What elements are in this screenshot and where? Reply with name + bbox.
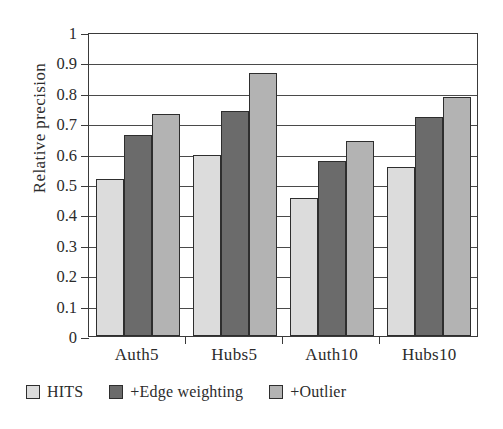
legend-label-1: +Edge weighting (130, 383, 243, 401)
y-axis-tick-label: 0.7 (56, 115, 77, 135)
bar-groups (89, 34, 477, 336)
bar-group-hubs10 (380, 34, 477, 336)
x-axis-label-hubs5: Hubs5 (186, 345, 284, 365)
y-axis-tick (81, 308, 89, 309)
y-axis-tick (81, 247, 89, 248)
legend-label-2: +Outlier (290, 383, 346, 401)
legend-label-0: HITS (47, 383, 83, 401)
y-axis-tick (81, 216, 89, 217)
y-axis-tick (81, 156, 89, 157)
bar-auth5-series2[interactable] (152, 114, 180, 336)
y-axis-tick-label: 0.5 (56, 176, 77, 196)
bar-auth10-series2[interactable] (346, 141, 374, 336)
y-axis-tick (81, 277, 89, 278)
bar-hubs5-series1[interactable] (221, 111, 249, 336)
y-axis-tick-label: 0 (69, 328, 77, 348)
y-axis-tick (81, 186, 89, 187)
y-axis-tick (81, 34, 89, 35)
legend-swatch-icon-0 (26, 385, 40, 399)
y-axis-tick-label: 0.8 (56, 84, 77, 104)
chart-figure: Relative precision 00.10.20.30.40.50.60.… (0, 0, 503, 429)
bar-hubs5-series0[interactable] (193, 155, 221, 336)
y-axis-title: Relative precision (30, 18, 50, 238)
y-axis-tick-label: 1 (69, 24, 77, 44)
bar-hubs10-series0[interactable] (387, 167, 415, 336)
y-axis-tick (81, 64, 89, 65)
bar-group-hubs5 (186, 34, 283, 336)
bar-hubs10-series2[interactable] (443, 97, 471, 336)
legend-item-0[interactable]: HITS (26, 383, 83, 401)
y-axis-tick-label: 0.2 (56, 267, 77, 287)
bar-hubs5-series2[interactable] (249, 73, 277, 336)
bar-auth5-series0[interactable] (96, 179, 124, 336)
bar-hubs10-series1[interactable] (415, 117, 443, 336)
x-axis-label-auth5: Auth5 (88, 345, 186, 365)
bar-auth10-series0[interactable] (290, 198, 318, 336)
y-axis-tick-label: 0.3 (56, 236, 77, 256)
legend-item-2[interactable]: +Outlier (269, 383, 346, 401)
bar-group-auth5 (89, 34, 186, 336)
plot-area: 00.10.20.30.40.50.60.70.80.91 (88, 33, 478, 337)
y-axis-tick-label: 0.6 (56, 145, 77, 165)
x-axis-group-tick (282, 336, 283, 344)
bar-group-auth10 (283, 34, 380, 336)
legend-swatch-icon-2 (269, 385, 283, 399)
x-axis-label-hubs10: Hubs10 (381, 345, 479, 365)
y-axis-tick (81, 95, 89, 96)
chart-legend: HITS+Edge weighting+Outlier (26, 383, 346, 401)
x-axis-group-tick (379, 336, 380, 344)
legend-swatch-icon-1 (109, 385, 123, 399)
y-axis-tick-label: 0.4 (56, 206, 77, 226)
x-axis-label-auth10: Auth10 (283, 345, 381, 365)
y-axis-tick-label: 0.9 (56, 54, 77, 74)
x-axis-group-tick (185, 336, 186, 344)
y-axis-tick (81, 125, 89, 126)
y-axis-tick-label: 0.1 (56, 297, 77, 317)
bar-auth5-series1[interactable] (124, 135, 152, 336)
bar-auth10-series1[interactable] (318, 161, 346, 336)
y-axis-tick (81, 338, 89, 339)
legend-item-1[interactable]: +Edge weighting (109, 383, 243, 401)
x-axis-labels: Auth5Hubs5Auth10Hubs10 (88, 345, 478, 365)
